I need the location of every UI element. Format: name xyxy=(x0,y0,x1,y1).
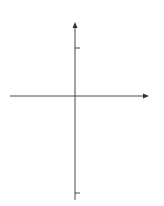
y-axis-arrow-icon xyxy=(73,22,78,28)
x-axis-arrow-icon xyxy=(143,94,149,99)
area-between-curves-chart xyxy=(0,0,164,206)
